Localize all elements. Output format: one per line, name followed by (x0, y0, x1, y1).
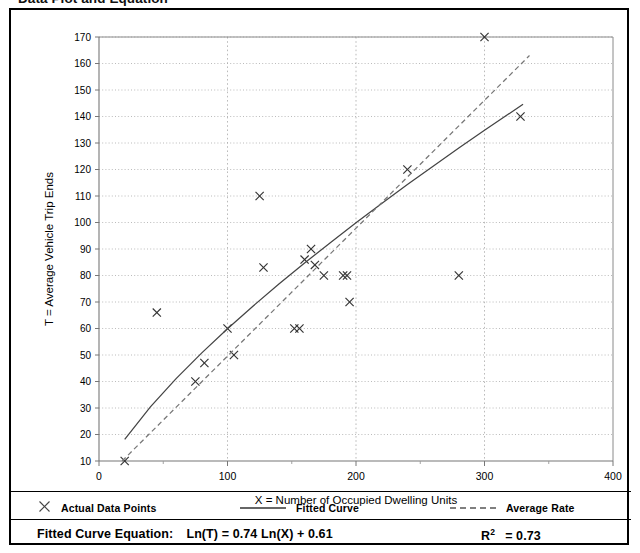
equation-formula: Ln(T) = 0.74 Ln(X) + 0.61 (186, 527, 332, 541)
r-squared-number: = 0.73 (505, 529, 541, 543)
r-squared-symbol: R (481, 529, 490, 543)
y-tick-label: 110 (75, 191, 91, 202)
y-tick-label: 120 (74, 164, 91, 175)
y-tick-label: 50 (80, 350, 92, 361)
y-tick-label: 160 (74, 58, 91, 69)
data-point-marker (200, 359, 208, 367)
figure-frame: 1020304050607080901001101201301401501601… (9, 8, 629, 545)
y-tick-label: 70 (80, 297, 92, 308)
grid-lines (99, 37, 613, 461)
plot-area: 1020304050607080901001101201301401501601… (11, 10, 631, 547)
line-series-average-rate (122, 56, 529, 461)
page-title: Data Plot and Equation (18, 0, 168, 6)
r-squared-exponent: 2 (490, 527, 495, 537)
data-point-marker (455, 271, 463, 279)
x-tick-label: 0 (96, 470, 102, 482)
y-axis-title: T = Average Vehicle Trip Ends (43, 172, 55, 326)
y-tick-label: 40 (80, 376, 92, 387)
line-series-fitted-curve (125, 104, 523, 439)
equation-label: Fitted Curve Equation: (37, 527, 173, 541)
x-tick-label: 100 (219, 470, 237, 482)
fitted-curve-equation: Fitted Curve Equation: Ln(T) = 0.74 Ln(X… (37, 527, 333, 541)
y-tick-label: 10 (80, 456, 92, 467)
data-point-marker (295, 324, 303, 332)
y-tick-label: 130 (74, 138, 91, 149)
legend-label-actual-data-points: Actual Data Points (61, 502, 156, 514)
y-tick-label: 20 (80, 429, 92, 440)
y-tick-label: 170 (74, 32, 91, 43)
x-tick-label: 400 (604, 470, 622, 482)
y-tick-label: 90 (80, 244, 92, 255)
equation-top-divider (11, 519, 631, 520)
y-tick-label: 80 (80, 270, 92, 281)
legend-label-average-rate: Average Rate (506, 502, 575, 514)
cross-marker-icon (37, 499, 52, 518)
dashed-line-icon (449, 499, 497, 517)
y-tick-label: 30 (80, 403, 92, 414)
data-point-marker (259, 263, 267, 271)
data-layer (121, 33, 530, 465)
equation-row: Fitted Curve Equation: Ln(T) = 0.74 Ln(X… (11, 524, 631, 553)
data-point-marker (343, 271, 351, 279)
y-tick-label: 100 (74, 217, 91, 228)
r-squared-value: R2 = 0.73 (481, 527, 541, 543)
chart-svg: 1020304050607080901001101201301401501601… (11, 10, 631, 547)
data-point-marker (153, 309, 161, 317)
x-tick-label: 200 (347, 470, 365, 482)
legend-label-fitted-curve: Fitted Curve (296, 502, 359, 514)
y-tick-label: 150 (74, 85, 91, 96)
solid-line-icon (239, 499, 287, 517)
data-point-marker (516, 112, 524, 120)
y-tick-label: 60 (80, 323, 92, 334)
y-tick-label: 140 (74, 111, 91, 122)
x-tick-label: 300 (476, 470, 494, 482)
data-point-marker (311, 261, 319, 269)
axes (95, 37, 613, 466)
